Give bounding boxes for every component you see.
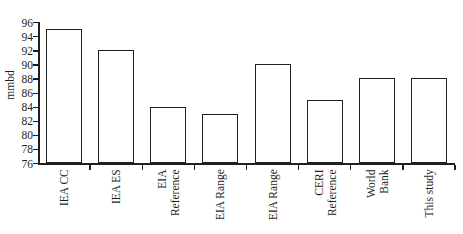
x-axis-tick bbox=[142, 165, 143, 170]
y-axis-tick bbox=[33, 135, 38, 136]
y-axis-tick bbox=[33, 107, 38, 108]
y-axis-line bbox=[38, 22, 40, 165]
y-axis-tick-label: 90 bbox=[9, 59, 33, 71]
x-category-label-ceri-reference: CERIReference bbox=[312, 169, 337, 234]
bar-eia-reference bbox=[150, 107, 186, 163]
bar-ceri-reference bbox=[307, 100, 343, 163]
x-axis-tick bbox=[89, 165, 90, 170]
y-axis-tick-label: 88 bbox=[9, 73, 33, 85]
y-axis-tick bbox=[33, 121, 38, 122]
y-axis-tick bbox=[33, 22, 38, 23]
x-axis-tick bbox=[350, 165, 351, 170]
bar-eia-range bbox=[255, 64, 291, 163]
bar-this-study bbox=[411, 78, 447, 163]
y-axis-tick-label: 86 bbox=[9, 87, 33, 99]
x-category-label-world-bank: WorldBank bbox=[364, 169, 389, 234]
bar-world-bank bbox=[359, 78, 395, 163]
x-category-label-iea-es: IEA ES bbox=[110, 169, 123, 234]
bar-iea-es bbox=[98, 50, 134, 163]
y-axis-tick-label: 76 bbox=[9, 158, 33, 170]
y-axis-tick bbox=[33, 149, 38, 150]
x-axis-tick bbox=[454, 165, 455, 170]
x-category-label-iea-cc: IEA CC bbox=[58, 169, 71, 234]
y-axis-tick bbox=[33, 78, 38, 79]
x-category-label-eia-range: EIA Range bbox=[266, 169, 279, 234]
y-axis-tick bbox=[33, 50, 38, 51]
y-axis-tick-label: 82 bbox=[9, 115, 33, 127]
bar-chart-figure: mmbd 7678808284868890929496IEA CCIEA ESE… bbox=[0, 0, 463, 234]
y-axis-tick-label: 78 bbox=[9, 143, 33, 155]
y-axis-tick-label: 96 bbox=[9, 17, 33, 29]
x-category-label-eia-range: EIA Range bbox=[214, 169, 227, 234]
y-axis-tick bbox=[33, 36, 38, 37]
bar-eia-range bbox=[202, 114, 238, 163]
y-axis-tick-label: 94 bbox=[9, 31, 33, 43]
x-axis-tick bbox=[402, 165, 403, 170]
y-axis-tick-label: 92 bbox=[9, 45, 33, 57]
y-axis-tick bbox=[33, 64, 38, 65]
x-category-label-eia-reference: EIAReference bbox=[156, 169, 181, 234]
x-axis-tick bbox=[246, 165, 247, 170]
y-axis-tick bbox=[33, 163, 38, 164]
x-axis-tick bbox=[298, 165, 299, 170]
x-axis-tick bbox=[194, 165, 195, 170]
y-axis-tick-label: 80 bbox=[9, 129, 33, 141]
y-axis-tick-label: 84 bbox=[9, 101, 33, 113]
y-axis-tick bbox=[33, 93, 38, 94]
x-category-label-this-study: This study bbox=[423, 169, 436, 234]
bar-iea-cc bbox=[46, 29, 82, 163]
